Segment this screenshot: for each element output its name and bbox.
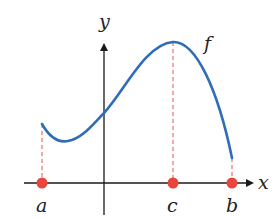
point-a xyxy=(37,178,48,189)
extreme-value-diagram: y x f a c b xyxy=(0,0,278,218)
point-label-b: b xyxy=(226,194,238,216)
point-label-a: a xyxy=(36,194,47,216)
point-label-c: c xyxy=(167,194,178,216)
function-label: f xyxy=(202,32,214,54)
diagram-canvas: y x f a c b xyxy=(0,0,278,218)
function-curve xyxy=(42,42,232,158)
x-axis-label: x xyxy=(258,171,269,193)
point-c xyxy=(168,178,179,189)
point-b xyxy=(227,178,238,189)
y-axis-label: y xyxy=(98,10,110,32)
